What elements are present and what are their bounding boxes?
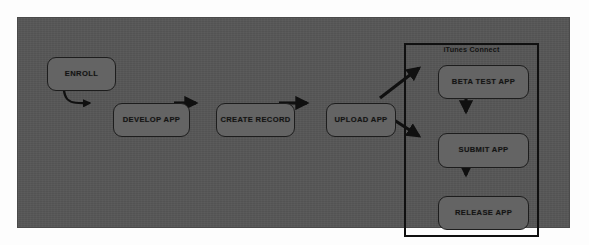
- node-beta-test-app-label: BETA TEST APP: [452, 78, 515, 86]
- node-develop-app[interactable]: DEVELOP APP: [113, 103, 190, 137]
- node-beta-test-app[interactable]: BETA TEST APP: [438, 65, 529, 99]
- diagram-canvas: iTunes Connect ENROLL DEVELOP APP CREATE…: [17, 17, 570, 228]
- diagram-screenshot: iTunes Connect ENROLL DEVELOP APP CREATE…: [0, 0, 589, 245]
- node-enroll-label: ENROLL: [65, 70, 98, 78]
- node-develop-app-label: DEVELOP APP: [123, 116, 180, 124]
- node-release-app[interactable]: RELEASE APP: [438, 196, 529, 230]
- node-submit-app-label: SUBMIT APP: [458, 146, 508, 154]
- node-upload-app-label: UPLOAD APP: [334, 116, 387, 124]
- node-create-record[interactable]: CREATE RECORD: [216, 103, 295, 137]
- node-enroll[interactable]: ENROLL: [47, 57, 116, 91]
- node-create-record-label: CREATE RECORD: [220, 116, 290, 124]
- node-upload-app[interactable]: UPLOAD APP: [326, 103, 396, 137]
- node-submit-app[interactable]: SUBMIT APP: [438, 133, 529, 168]
- group-itunes-connect-label: iTunes Connect: [404, 45, 539, 54]
- edge-upload-app-to-beta-test-app: [380, 68, 419, 98]
- node-release-app-label: RELEASE APP: [455, 209, 512, 217]
